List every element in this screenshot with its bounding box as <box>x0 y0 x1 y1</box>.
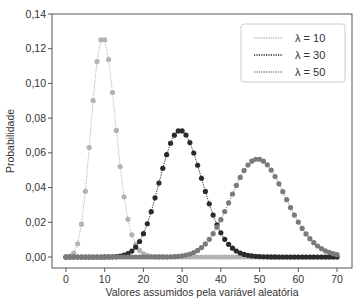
x-axis-ticks: 010203040506070 <box>63 268 343 285</box>
data-point <box>230 191 235 196</box>
data-point <box>218 230 223 235</box>
data-point <box>284 197 289 202</box>
y-tick-label: 0,14 <box>26 8 47 20</box>
data-point <box>307 236 312 241</box>
data-point <box>168 141 173 146</box>
data-point <box>292 213 297 218</box>
data-point <box>261 159 266 164</box>
data-point <box>75 241 80 246</box>
data-point <box>102 37 107 42</box>
data-point <box>265 162 270 167</box>
data-point <box>245 162 250 167</box>
data-point <box>160 166 165 171</box>
data-point <box>280 189 285 194</box>
data-point <box>195 163 200 168</box>
data-point <box>203 241 208 246</box>
data-point <box>269 167 274 172</box>
legend: λ = 10λ = 30λ = 50 <box>241 24 345 82</box>
y-axis-ticks: 0,000,020,040,060,080,100,120,14 <box>26 8 52 263</box>
data-point <box>141 231 146 236</box>
data-point <box>288 205 293 210</box>
data-point <box>222 209 227 214</box>
x-tick-label: 0 <box>63 273 69 285</box>
legend-label: λ = 50 <box>295 66 325 78</box>
data-point <box>300 226 305 231</box>
y-axis-label: Probabilidade <box>4 109 16 173</box>
data-point <box>334 252 339 257</box>
legend-label: λ = 10 <box>295 32 325 44</box>
data-point <box>238 175 243 180</box>
data-point <box>296 220 301 225</box>
data-point <box>91 98 96 103</box>
chart: 0,000,020,040,060,080,100,120,14 0102030… <box>0 0 363 308</box>
data-point <box>114 128 119 133</box>
data-point <box>214 225 219 230</box>
data-point <box>272 174 277 179</box>
data-point <box>199 245 204 250</box>
data-point <box>222 237 227 242</box>
data-point <box>79 222 84 227</box>
x-tick-label: 50 <box>254 273 266 285</box>
data-point <box>183 132 188 137</box>
y-tick-label: 0,10 <box>26 77 47 89</box>
data-point <box>226 242 231 247</box>
data-point <box>129 249 134 254</box>
data-point <box>276 181 281 186</box>
y-tick-label: 0,08 <box>26 112 47 124</box>
data-point <box>110 90 115 95</box>
x-tick-label: 10 <box>99 273 111 285</box>
data-point <box>83 189 88 194</box>
data-point <box>207 237 212 242</box>
data-point <box>187 140 192 145</box>
data-point <box>145 221 150 226</box>
data-point <box>234 183 239 188</box>
data-point <box>125 217 130 222</box>
data-point <box>94 59 99 64</box>
data-point <box>207 201 212 206</box>
y-tick-label: 0,02 <box>26 216 47 228</box>
data-point <box>156 180 161 185</box>
y-tick-label: 0,04 <box>26 181 47 193</box>
legend-box <box>241 24 345 82</box>
x-tick-label: 70 <box>331 273 343 285</box>
legend-label: λ = 30 <box>295 49 325 61</box>
data-point <box>164 152 169 157</box>
data-point <box>218 217 223 222</box>
data-point <box>241 168 246 173</box>
y-tick-label: 0,12 <box>26 42 47 54</box>
data-point <box>211 231 216 236</box>
data-point <box>118 164 123 169</box>
data-point <box>149 209 154 214</box>
data-point <box>106 57 111 62</box>
data-point <box>133 245 138 250</box>
x-tick-label: 60 <box>292 273 304 285</box>
data-point <box>211 212 216 217</box>
data-point <box>121 194 126 199</box>
x-tick-label: 40 <box>215 273 227 285</box>
data-point <box>137 239 142 244</box>
data-point <box>180 128 185 133</box>
data-point <box>199 176 204 181</box>
y-tick-label: 0,00 <box>26 251 47 263</box>
data-point <box>226 200 231 205</box>
data-point <box>87 145 92 150</box>
x-tick-label: 30 <box>176 273 188 285</box>
data-point <box>191 150 196 155</box>
x-tick-label: 20 <box>138 273 150 285</box>
data-point <box>172 133 177 138</box>
data-point <box>129 232 134 237</box>
x-axis-label: Valores assumidos pela variável aleatóri… <box>106 286 299 298</box>
y-tick-label: 0,06 <box>26 146 47 158</box>
data-point <box>203 189 208 194</box>
data-point <box>303 231 308 236</box>
data-point <box>152 195 157 200</box>
